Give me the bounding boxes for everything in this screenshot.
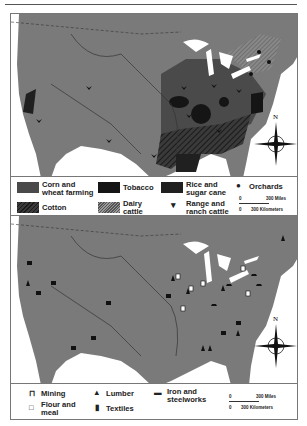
legend-flour-meal: Flour andmeal — [41, 401, 76, 416]
legend-textiles: Textiles — [106, 405, 134, 413]
agriculture-map-canvas: N — [11, 14, 298, 177]
legend-dairy: Dairycattle — [123, 200, 143, 215]
legend-corn-wheat: Corn andwheat farming — [42, 181, 93, 196]
mining-icon: ⊓ — [29, 390, 35, 398]
dairy-hatch-swatch — [98, 202, 120, 213]
iron-steel-icon: ▬ — [154, 389, 162, 397]
corn-wheat-swatch — [17, 182, 39, 193]
scale-zero-km: 0 — [239, 207, 242, 212]
scale-bar — [229, 401, 259, 402]
scale-km: 300 Kilometers — [251, 207, 283, 212]
svg-text:N: N — [273, 315, 278, 323]
legend-range-cattle: Range andranch cattle — [186, 200, 229, 215]
apple-icon: ● — [236, 182, 241, 190]
agriculture-legend: Corn andwheat farming Tobacco Rice andsu… — [10, 176, 298, 216]
scale-miles: 300 Miles — [256, 394, 276, 399]
legend-tobacco: Tobacco — [123, 184, 154, 192]
cattle-horns-icon: ▾ — [171, 202, 176, 210]
legend-rice-sugar: Rice andsugar cane — [186, 181, 226, 196]
agriculture-map: N — [10, 13, 298, 177]
scale-zero-km: 0 — [229, 405, 232, 410]
scale-bar — [239, 203, 269, 204]
legend-cotton: Cotton — [42, 204, 66, 212]
scale-zero-miles: 0 — [239, 196, 242, 201]
industry-legend: ⊓ Mining ▲ Lumber ▬ Iron andsteelworks □… — [10, 383, 298, 420]
tobacco-swatch — [98, 182, 120, 193]
scale-zero-miles: 0 — [229, 394, 232, 399]
svg-text:N: N — [273, 113, 278, 121]
legend-iron-steel: Iron andsteelworks — [167, 388, 206, 403]
rice-sugar-swatch — [161, 182, 183, 193]
flour-sack-icon: □ — [29, 404, 34, 412]
page-header-rule — [5, 4, 297, 5]
industry-map-canvas: N — [11, 216, 298, 384]
cotton-hatch-swatch — [17, 202, 39, 213]
textiles-spool-icon: ▮ — [95, 404, 99, 412]
legend-orchards: Orchards — [249, 183, 283, 191]
legend-lumber: Lumber — [106, 390, 134, 398]
scale-km: 300 Kilometers — [241, 405, 273, 410]
legend-mining: Mining — [41, 390, 65, 398]
scale-miles: 300 Miles — [266, 196, 286, 201]
industry-map: N — [10, 215, 298, 384]
lumber-tree-icon: ▲ — [93, 389, 101, 397]
